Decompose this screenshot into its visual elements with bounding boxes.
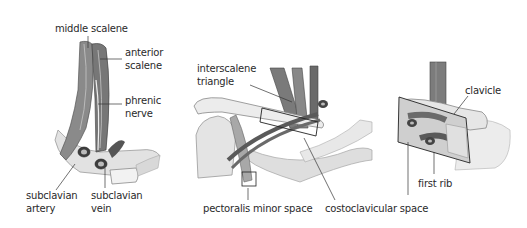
costoclavicular-illustration [0,0,527,228]
label-clavicle: clavicle [465,84,501,97]
label-first-rib: first rib [418,177,452,190]
panel-costoclavicular-detail: clavicle first rib [0,0,527,228]
